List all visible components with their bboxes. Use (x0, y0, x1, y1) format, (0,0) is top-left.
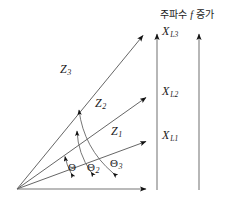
phasor-diagram (0, 0, 239, 203)
header-frequency-increase: 주파수 f 증가 (160, 6, 214, 21)
vector-label-z2: Z2 (95, 96, 106, 111)
xl2-subscript: L2 (169, 90, 178, 99)
vector-z2 (17, 98, 146, 190)
z2-subscript: 2 (102, 102, 107, 111)
theta3-symbol: Θ (110, 157, 118, 169)
vector-label-z3: Z3 (60, 62, 71, 77)
xl1-subscript: L1 (169, 134, 178, 143)
figure-container: 주파수 f 증가 XL3 XL2 XL1 Z3 Z2 Z1 Θ Θ2 Θ3 (0, 0, 239, 203)
reactance-label-xl3: XL3 (162, 24, 178, 39)
theta2-subscript: 2 (95, 166, 100, 175)
theta3-subscript: 3 (118, 162, 123, 171)
z1-symbol: Z (111, 124, 118, 138)
angle-label-theta2: Θ2 (87, 161, 99, 175)
reactance-label-xl2: XL2 (162, 84, 178, 99)
vector-label-z1: Z1 (111, 124, 122, 139)
xl3-subscript: L3 (169, 30, 178, 39)
theta2-symbol: Θ (87, 161, 95, 173)
z3-subscript: 3 (67, 68, 72, 77)
angle-label-theta3: Θ3 (110, 157, 122, 171)
theta1-subscript (76, 166, 77, 175)
reactance-label-xl1: XL1 (162, 128, 178, 143)
header-suffix: 증가 (193, 9, 214, 20)
angle-label-theta1: Θ (68, 161, 76, 175)
header-prefix: 주파수 (160, 9, 190, 20)
z1-subscript: 1 (118, 130, 123, 139)
z3-symbol: Z (60, 62, 67, 76)
z2-symbol: Z (95, 96, 102, 110)
theta1-symbol: Θ (68, 161, 76, 173)
